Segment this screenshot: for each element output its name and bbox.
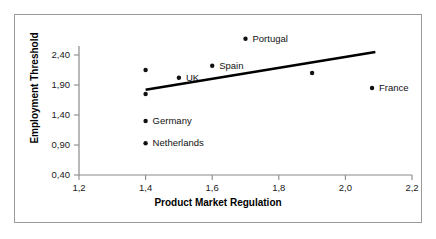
data-point-marker bbox=[143, 141, 147, 145]
data-point-label: Germany bbox=[153, 116, 192, 126]
data-point-marker bbox=[143, 119, 147, 123]
y-axis-title: Employment Threshold bbox=[30, 13, 40, 163]
data-point-label: Portugal bbox=[253, 34, 288, 44]
trend-line bbox=[146, 52, 376, 90]
data-point-marker bbox=[310, 71, 314, 75]
x-tick-label: 1,4 bbox=[121, 183, 171, 193]
x-axis-ticks bbox=[79, 175, 412, 180]
data-point-label: France bbox=[379, 83, 409, 93]
data-point-marker bbox=[177, 76, 181, 80]
x-axis-title: Product Market Regulation bbox=[0, 198, 436, 208]
x-tick-label: 1,6 bbox=[187, 183, 237, 193]
x-tick-label: 1,8 bbox=[254, 183, 304, 193]
data-point-marker bbox=[243, 37, 247, 41]
data-point-marker bbox=[370, 86, 374, 90]
data-point-marker bbox=[143, 92, 147, 96]
data-point-label: Spain bbox=[219, 61, 243, 71]
x-tick-label: 2,2 bbox=[387, 183, 436, 193]
data-point-marker bbox=[143, 68, 147, 72]
data-point-markers bbox=[143, 37, 374, 146]
regression-line bbox=[146, 52, 376, 90]
data-point-label: Netherlands bbox=[153, 138, 204, 148]
chart-figure: 0,400,901,401,902,40 1,21,41,61,82,02,2 … bbox=[0, 0, 436, 239]
x-tick-label: 1,2 bbox=[54, 183, 104, 193]
axes bbox=[79, 46, 412, 175]
y-axis-ticks bbox=[74, 55, 79, 175]
x-tick-label: 2,0 bbox=[320, 183, 370, 193]
data-point-label: UK bbox=[186, 73, 199, 83]
y-tick-label: 0,40 bbox=[28, 170, 70, 180]
data-point-marker bbox=[210, 64, 214, 68]
